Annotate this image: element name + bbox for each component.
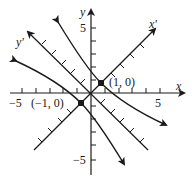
- y-tick-label-neg5: −5: [73, 153, 86, 167]
- y-prime-axis: [28, 32, 148, 150]
- x-prime-axis-label: x': [148, 17, 157, 31]
- x-axis-label: x: [175, 79, 182, 93]
- y-prime-axis-label: y': [15, 35, 24, 49]
- x-tick-label-5: 5: [155, 96, 161, 110]
- rotated-axes-diagram: x y x' y' 5 −5 5 −5 (1, 0) (−1, 0): [0, 0, 192, 181]
- point-neg-vertex: [78, 100, 84, 106]
- y-tick-label-5: 5: [80, 21, 86, 35]
- x-axis: [10, 88, 184, 93]
- y-axis-label: y: [79, 5, 86, 19]
- x-tick-label-neg5: −5: [9, 96, 22, 110]
- point-label-neg: (−1, 0): [31, 96, 64, 110]
- point-pos-vertex: [98, 80, 104, 86]
- point-label-pos: (1, 0): [109, 75, 135, 89]
